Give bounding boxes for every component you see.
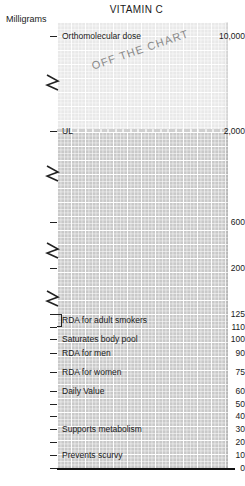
tick-value-60: 60 (199, 386, 245, 396)
tick-mark-2000 (50, 131, 57, 132)
tick-mark-20 (50, 442, 57, 443)
tick-label-90: RDA for men (62, 348, 111, 358)
tick-label-2000: UL (62, 126, 73, 136)
axis-break-icon-4 (45, 288, 61, 308)
tick-mark-60 (50, 391, 57, 392)
tick-value-40: 40 (199, 411, 245, 421)
tick-mark-110 (50, 327, 57, 328)
tick-value-10000: 10,000 (199, 31, 245, 41)
axis-break-icon-3 (45, 240, 61, 260)
tick-label-30: Supports metabolism (62, 424, 142, 434)
tick-label-rda-adult-smokers: RDA for adult smokers (62, 315, 147, 325)
tick-value-125: 125 (199, 309, 245, 319)
tick-mark-200 (50, 268, 57, 269)
tick-value-2000: 2,000 (199, 126, 245, 136)
tick-mark-100 (50, 339, 57, 340)
tick-value-50: 50 (199, 399, 245, 409)
tick-mark-10 (50, 455, 57, 456)
tick-value-600: 600 (199, 217, 245, 227)
axis-break-icon-2 (45, 163, 61, 183)
tick-mark-75 (50, 372, 57, 373)
tick-label-75: RDA for women (62, 367, 122, 377)
tick-label-100: Saturates body pool (62, 334, 138, 344)
tick-label-10: Prevents scurvy (62, 450, 122, 460)
tick-value-30: 30 (199, 424, 245, 434)
tick-mark-30 (50, 429, 57, 430)
tick-mark-10000 (50, 36, 57, 37)
tick-value-10: 10 (199, 450, 245, 460)
tick-value-110: 110 (199, 322, 245, 332)
axis-break-icon-1 (45, 72, 61, 92)
tick-mark-0 (50, 468, 57, 469)
tick-value-75: 75 (199, 367, 245, 377)
tick-value-90: 90 (199, 348, 245, 358)
tick-mark-50 (50, 404, 57, 405)
tick-label-60: Daily Value (62, 386, 104, 396)
tick-label-10000: Orthomolecular dose (62, 31, 141, 41)
tick-value-0: 0 (199, 463, 245, 473)
tick-mark-40 (50, 416, 57, 417)
vitamin-c-chart: VITAMIN C Milligrams OFF THE CHART 010Pr… (0, 0, 245, 486)
tick-mark-90 (50, 353, 57, 354)
tick-value-100: 100 (199, 334, 245, 344)
tick-value-20: 20 (199, 437, 245, 447)
y-axis-unit-label: Milligrams (6, 14, 47, 24)
tick-mark-600 (50, 222, 57, 223)
tick-value-200: 200 (199, 263, 245, 273)
tick-mark-125 (50, 314, 57, 315)
